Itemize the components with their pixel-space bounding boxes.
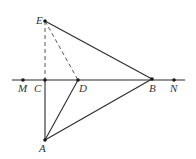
label-c: C: [34, 82, 42, 94]
label-n: N: [169, 82, 178, 94]
label-a: A: [38, 142, 46, 154]
label-b: B: [149, 82, 156, 94]
label-m: M: [17, 82, 28, 94]
segment-eb: [45, 21, 152, 79]
label-e: E: [35, 14, 43, 26]
point-b: [150, 77, 154, 81]
point-e: [43, 19, 47, 23]
point-c: [43, 78, 47, 82]
geometry-diagram: E M C D B N A: [0, 0, 196, 159]
label-d: D: [78, 82, 87, 94]
segment-ab: [45, 79, 152, 140]
